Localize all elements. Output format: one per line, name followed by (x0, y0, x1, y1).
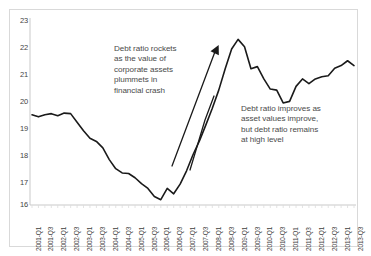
x-tick-label: 2010-Q1 (266, 227, 273, 251)
x-tick-label: 2011-Q3 (305, 227, 312, 251)
chart-container: 23 22 21 20 19 18 17 16 2001-Q12001-Q320… (0, 0, 371, 256)
x-tick-label: 2003-Q1 (86, 227, 93, 251)
x-tick-label: 2009-Q1 (241, 227, 248, 251)
x-tick-label: 2002-Q3 (73, 227, 80, 251)
x-tick-label: 2004-Q3 (125, 227, 132, 251)
annotation-improve-text: Debt ratio improves as asset values impr… (241, 104, 359, 146)
x-tick-label: 2009-Q3 (254, 227, 261, 251)
x-tick-label: 2013-Q1 (344, 227, 351, 251)
x-tick-label: 2011-Q1 (292, 227, 299, 251)
x-tick-label: 2012-Q1 (318, 227, 325, 251)
x-tick-label: 2010-Q3 (279, 227, 286, 251)
x-tick-label: 2003-Q3 (99, 227, 106, 251)
x-tick-label: 2001-Q1 (35, 227, 42, 251)
x-tick-label: 2002-Q1 (60, 227, 67, 251)
x-tick-label: 2013-Q3 (357, 227, 364, 251)
x-tick-label: 2005-Q1 (138, 227, 145, 251)
x-tick-label: 2012-Q3 (331, 227, 338, 251)
x-tick-label: 2007-Q3 (202, 227, 209, 251)
x-tick-label: 2006-Q1 (163, 227, 170, 251)
x-axis-tick-labels: 2001-Q12001-Q32002-Q12002-Q32003-Q12003-… (30, 207, 356, 253)
x-tick-label: 2007-Q1 (189, 227, 196, 251)
annotation-crash-text: Debt ratio rockets as the value of corpo… (114, 44, 218, 96)
x-tick-label: 2005-Q3 (151, 227, 158, 251)
x-tick-label: 2008-Q3 (228, 227, 235, 251)
x-tick-label: 2008-Q1 (215, 227, 222, 251)
x-tick-label: 2001-Q3 (47, 227, 54, 251)
x-tick-label: 2004-Q1 (112, 227, 119, 251)
x-tick-label: 2006-Q3 (176, 227, 183, 251)
